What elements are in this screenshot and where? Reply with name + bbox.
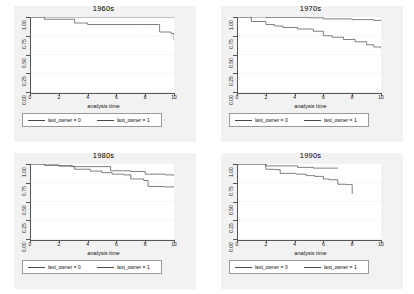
legend-entry-1: last_owner = 1 bbox=[92, 117, 161, 123]
curve-last-owner-0 bbox=[30, 164, 174, 176]
survival-curves bbox=[30, 164, 174, 239]
panel-legend: last_owner = 0 last_owner = 1 bbox=[229, 260, 369, 274]
legend-line-icon bbox=[28, 267, 45, 268]
series-last-owner-1 bbox=[237, 17, 381, 49]
x-tick-mark bbox=[323, 93, 324, 96]
plot-area bbox=[30, 17, 174, 92]
y-tick-mark bbox=[26, 73, 30, 74]
series-last-owner-1 bbox=[30, 17, 174, 40]
y-tick-label: 1.00 bbox=[21, 17, 27, 33]
legend-label: last_owner = 1 bbox=[324, 264, 357, 270]
x-tick-mark bbox=[295, 240, 296, 243]
x-tick-mark bbox=[59, 240, 60, 243]
y-tick-label: 0.50 bbox=[228, 55, 234, 71]
panel-1990s: 1990s 0.000.250.500.751.00 0246810 analy… bbox=[207, 147, 414, 294]
x-tick-mark bbox=[30, 240, 31, 243]
x-tick-mark bbox=[266, 240, 267, 243]
gridlines bbox=[30, 36, 174, 74]
y-tick-mark bbox=[233, 202, 237, 203]
x-tick-mark bbox=[381, 93, 382, 96]
panel-title: 1970s bbox=[207, 4, 414, 13]
y-tick-label: 0.75 bbox=[228, 183, 234, 199]
plot-area bbox=[237, 17, 381, 92]
x-axis-label: analysis time bbox=[207, 250, 414, 256]
x-tick-mark bbox=[174, 93, 175, 96]
legend-entry-0: last_owner = 0 bbox=[23, 117, 92, 123]
y-tick-mark bbox=[233, 220, 237, 221]
legend-line-icon bbox=[235, 120, 252, 121]
x-tick-mark bbox=[59, 93, 60, 96]
legend-label: last_owner = 1 bbox=[117, 264, 150, 270]
y-tick-label: 0.75 bbox=[228, 36, 234, 52]
legend-line-icon bbox=[97, 120, 114, 121]
y-tick-label: 0.75 bbox=[21, 36, 27, 52]
panel-1980s: 1980s 0.000.250.500.751.00 0246810 analy… bbox=[0, 147, 207, 294]
series-last-owner-1 bbox=[30, 164, 174, 187]
y-tick-label: 0.25 bbox=[228, 220, 234, 236]
x-tick-mark bbox=[145, 93, 146, 96]
x-tick-mark bbox=[145, 240, 146, 243]
panel-1970s: 1970s 0.000.250.500.751.00 0246810 analy… bbox=[207, 0, 414, 147]
gridlines bbox=[237, 36, 381, 74]
legend-line-icon bbox=[235, 267, 252, 268]
x-tick-mark bbox=[352, 240, 353, 243]
x-tick-mark bbox=[174, 240, 175, 243]
legend-label: last_owner = 1 bbox=[117, 117, 150, 123]
legend-label: last_owner = 0 bbox=[48, 264, 81, 270]
y-tick-mark bbox=[233, 183, 237, 184]
x-tick-mark bbox=[30, 93, 31, 96]
legend-line-icon bbox=[28, 120, 45, 121]
y-tick-label: 0.25 bbox=[21, 220, 27, 236]
gridlines bbox=[237, 183, 381, 221]
curve-last-owner-0 bbox=[237, 17, 381, 21]
x-axis bbox=[237, 93, 382, 94]
legend-line-icon bbox=[97, 267, 114, 268]
x-tick-mark bbox=[295, 93, 296, 96]
y-tick-label: 1.00 bbox=[228, 164, 234, 180]
curve-last-owner-1 bbox=[237, 164, 352, 194]
curve-last-owner-1 bbox=[30, 164, 174, 187]
legend-entry-1: last_owner = 1 bbox=[299, 264, 368, 270]
series-last-owner-0 bbox=[30, 164, 174, 176]
x-tick-mark bbox=[88, 240, 89, 243]
y-tick-label: 0.50 bbox=[228, 202, 234, 218]
y-tick-mark bbox=[26, 220, 30, 221]
series-last-owner-0 bbox=[237, 164, 338, 168]
legend-label: last_owner = 0 bbox=[48, 117, 81, 123]
x-axis bbox=[237, 240, 382, 241]
y-tick-label: 1.00 bbox=[228, 17, 234, 33]
panel-legend: last_owner = 0 last_owner = 1 bbox=[229, 113, 369, 127]
x-axis bbox=[30, 240, 175, 241]
legend-label: last_owner = 1 bbox=[324, 117, 357, 123]
curve-last-owner-1 bbox=[237, 17, 381, 49]
legend-label: last_owner = 0 bbox=[255, 264, 288, 270]
plot-area bbox=[237, 164, 381, 239]
y-tick-mark bbox=[233, 17, 237, 18]
y-tick-mark bbox=[26, 17, 30, 18]
legend-entry-1: last_owner = 1 bbox=[299, 117, 368, 123]
legend-entry-1: last_owner = 1 bbox=[92, 264, 161, 270]
curve-last-owner-0 bbox=[237, 164, 338, 168]
panel-title: 1980s bbox=[0, 151, 207, 160]
y-tick-mark bbox=[26, 202, 30, 203]
x-tick-mark bbox=[352, 93, 353, 96]
y-tick-mark bbox=[233, 73, 237, 74]
legend-line-icon bbox=[304, 120, 321, 121]
x-tick-mark bbox=[116, 240, 117, 243]
x-tick-mark bbox=[266, 93, 267, 96]
y-tick-mark bbox=[233, 55, 237, 56]
panel-legend: last_owner = 0 last_owner = 1 bbox=[22, 260, 162, 274]
legend-label: last_owner = 0 bbox=[255, 117, 288, 123]
y-tick-label: 0.50 bbox=[21, 202, 27, 218]
legend-entry-0: last_owner = 0 bbox=[23, 264, 92, 270]
y-tick-mark bbox=[233, 164, 237, 165]
x-tick-mark bbox=[237, 93, 238, 96]
y-tick-mark bbox=[26, 164, 30, 165]
plot-area bbox=[30, 164, 174, 239]
series-last-owner-0 bbox=[237, 17, 381, 21]
y-tick-label: 1.00 bbox=[21, 164, 27, 180]
panel-1960s: 1960s 0.000.250.500.751.00 0246810 analy… bbox=[0, 0, 207, 147]
survival-curves bbox=[237, 17, 381, 92]
x-tick-mark bbox=[116, 93, 117, 96]
y-tick-mark bbox=[26, 36, 30, 37]
